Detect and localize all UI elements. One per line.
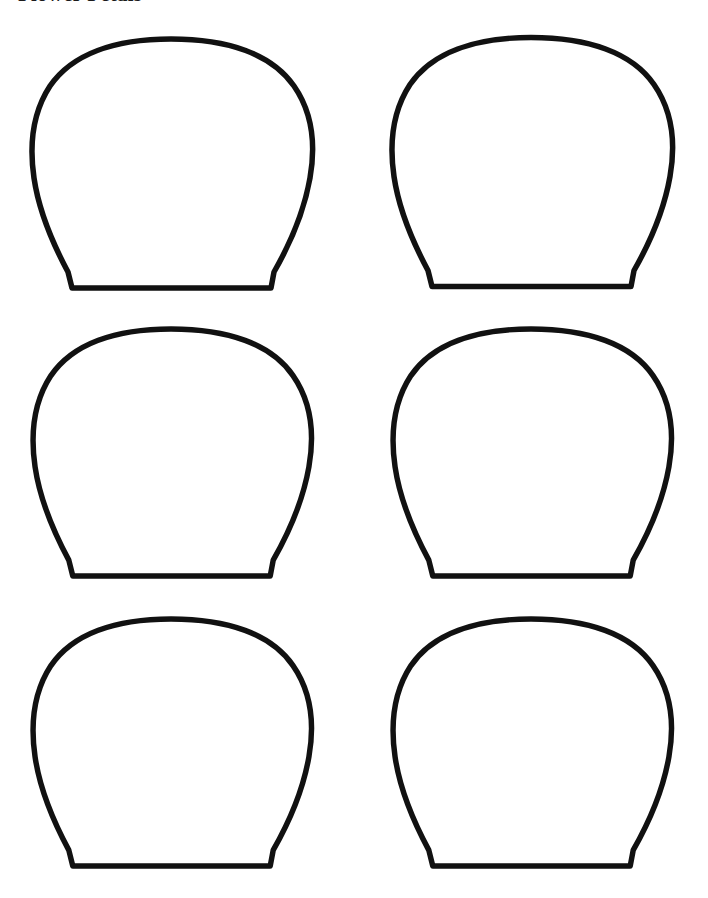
page-title: Flower Petals [18,0,142,5]
petal-outline-svg [32,36,310,292]
petal-shape-2 [392,33,670,292]
template-page: Flower Petals [0,0,708,898]
petal-shape-5 [32,616,310,870]
petal-outline-svg [392,326,670,580]
petal-outline-path [393,619,671,866]
page-title-clip-region: Flower Petals [0,0,708,5]
petal-outline-svg [32,326,310,580]
petal-shape-1 [32,36,310,292]
petal-shape-3 [32,326,310,580]
petal-outline-svg [392,616,670,870]
petal-shape-4 [392,326,670,580]
petal-outline-path [393,329,671,576]
petal-outline-path [33,329,311,576]
petal-outline-path [32,39,313,288]
petal-outline-svg [32,616,310,870]
petal-outline-path [33,619,311,866]
petal-outline-svg [392,33,670,292]
petal-outline-path [392,38,673,287]
petal-shape-6 [392,616,670,870]
